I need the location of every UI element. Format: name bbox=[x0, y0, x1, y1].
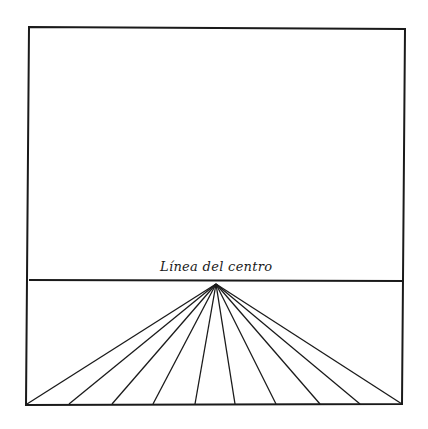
ray-line bbox=[195, 284, 216, 404]
ray-line bbox=[27, 284, 216, 404]
perspective-diagram: Línea del centro bbox=[0, 0, 428, 429]
ray-line bbox=[69, 284, 216, 404]
ray-line bbox=[216, 284, 360, 404]
ray-line bbox=[216, 284, 402, 404]
frame-border bbox=[26, 27, 405, 405]
horizon-line bbox=[29, 280, 403, 281]
ray-line bbox=[153, 284, 216, 404]
ray-line bbox=[112, 284, 216, 404]
center-line-label: Línea del centro bbox=[160, 259, 272, 274]
perspective-drawing bbox=[0, 0, 428, 429]
converging-rays bbox=[27, 284, 402, 404]
